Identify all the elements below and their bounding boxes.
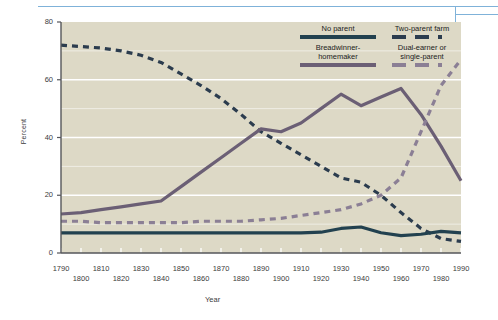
x-tick-label: 1910 <box>286 264 316 273</box>
x-axis-title: Year <box>205 295 220 304</box>
x-tick-label: 1900 <box>266 274 296 283</box>
y-tick-label: 60 <box>31 75 53 84</box>
legend-item-dual-earner[interactable]: Dual-earner or single-parent <box>384 43 460 67</box>
x-tick-label: 1930 <box>326 264 356 273</box>
x-tick-label: 1860 <box>186 274 216 283</box>
legend-label-breadwinner-1: Breadwinner- <box>300 43 376 52</box>
x-tick-label: 1840 <box>146 274 176 283</box>
x-tick-label: 1800 <box>66 274 96 283</box>
legend-swatch-two-parent-farm <box>384 35 460 39</box>
x-tick-label: 1810 <box>86 264 116 273</box>
y-tick-label: 0 <box>31 248 53 257</box>
legend-swatch-dual-earner <box>384 63 460 67</box>
x-tick-label: 1880 <box>226 274 256 283</box>
x-tick-label: 1950 <box>366 264 396 273</box>
legend-label-no-parent: No parent <box>300 24 376 33</box>
x-tick-label: 1970 <box>406 264 436 273</box>
chart-figure: Percent Year 020406080 17901810183018501… <box>0 0 498 320</box>
x-tick-label: 1920 <box>306 274 336 283</box>
axis-ticks <box>61 248 461 253</box>
y-tick-label: 80 <box>31 17 53 26</box>
x-tick-label: 1830 <box>126 264 156 273</box>
x-tick-label: 1980 <box>426 274 456 283</box>
legend-swatch-breadwinner <box>300 63 376 67</box>
x-tick-label: 1890 <box>246 264 276 273</box>
legend-swatch-no-parent <box>300 35 376 39</box>
legend-label-dual-earner-1: Dual-earner or <box>384 43 460 52</box>
y-tick-label: 20 <box>31 190 53 199</box>
legend-item-breadwinner[interactable]: Breadwinner- homemaker <box>300 43 376 67</box>
x-tick-label: 1870 <box>206 264 236 273</box>
x-tick-label: 1790 <box>46 264 76 273</box>
legend-item-two-parent-farm[interactable]: Two-parent farm <box>384 24 460 39</box>
x-tick-label: 1940 <box>346 274 376 283</box>
x-tick-label: 1820 <box>106 274 136 283</box>
legend-item-no-parent[interactable]: No parent <box>300 24 376 39</box>
legend-label-dual-earner-2: single-parent <box>384 52 460 61</box>
x-tick-label: 1850 <box>166 264 196 273</box>
y-tick-label: 40 <box>31 133 53 142</box>
legend-label-two-parent-farm: Two-parent farm <box>384 24 460 33</box>
legend-label-breadwinner-2: homemaker <box>300 52 376 61</box>
x-tick-label: 1990 <box>446 264 476 273</box>
x-tick-label: 1960 <box>386 274 416 283</box>
y-axis-title: Percent <box>20 102 27 162</box>
